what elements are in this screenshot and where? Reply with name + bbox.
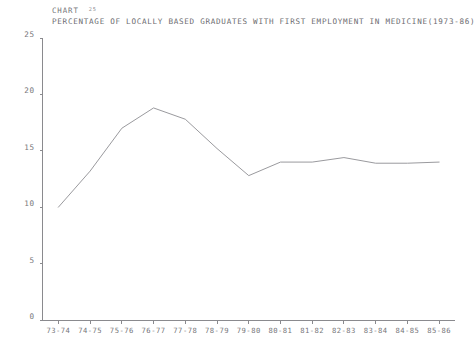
x-tick-label: 82-83 [327,326,361,335]
x-tick-label: 85-86 [422,326,456,335]
x-tick-label: 79-80 [232,326,266,335]
x-tick-label: 74-75 [73,326,107,335]
y-tick-label: 10 [13,199,35,208]
y-tick-label: 15 [13,143,35,152]
x-tick-label: 76-77 [137,326,171,335]
x-tick-label: 78-79 [200,326,234,335]
x-tick-label: 73-74 [41,326,75,335]
x-tick-label: 81-82 [295,326,329,335]
y-tick-label: 20 [13,86,35,95]
x-tick-label: 77-78 [168,326,202,335]
series-line-medicine [58,108,439,207]
x-tick-label: 84-85 [390,326,424,335]
y-tick-label: 0 [13,312,35,321]
y-tick-label: 5 [13,256,35,265]
y-tick-label: 25 [13,30,35,39]
x-tick-label: 80-81 [263,326,297,335]
x-axis-ticks [58,320,439,324]
x-tick-label: 83-84 [359,326,393,335]
x-tick-label: 75-76 [105,326,139,335]
